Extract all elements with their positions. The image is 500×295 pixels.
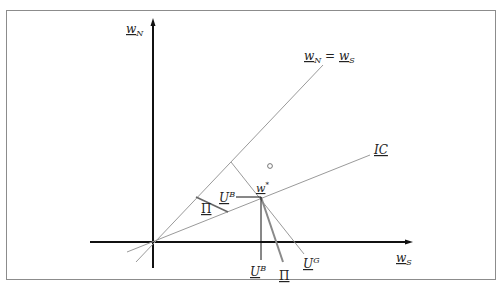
ic-line-label: IC (373, 143, 388, 157)
pi-lower-label: Π (279, 269, 289, 283)
x-axis-label: wS (396, 251, 412, 267)
u-b-upper-label: UB (219, 190, 235, 205)
frame-border (7, 11, 496, 280)
reference-point-icon (268, 164, 273, 169)
ic-line (127, 155, 370, 252)
u-g-line (231, 162, 304, 254)
y-axis-label: wN (126, 22, 144, 38)
economic-diagram: wN wS wN = wS IC w* UB Π UB Π UG (0, 0, 500, 295)
y-axis-arrow-icon (151, 18, 156, 26)
x-axis-arrow-icon (405, 240, 413, 245)
diagonal-line-label: wN = wS (304, 49, 355, 65)
pi-line-lower (261, 197, 283, 262)
pi-upper-label: Π (201, 202, 211, 216)
diagonal-line (136, 65, 323, 262)
u-b-lower-label: UB (250, 264, 266, 279)
w-star-label: w* (256, 181, 269, 195)
u-g-label: UG (303, 256, 320, 271)
